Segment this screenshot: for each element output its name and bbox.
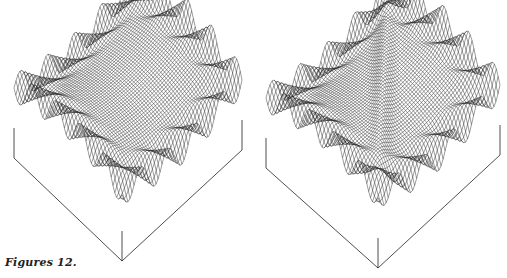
surface-plot-left-canvas [0,0,254,278]
figure-caption: Figures 12. [5,256,77,269]
surface-plot-right-canvas [254,0,507,278]
surface-mesh [14,0,242,202]
surface-mesh [266,0,500,205]
surface-plot-right [254,0,507,278]
surface-plot-left [0,0,254,278]
